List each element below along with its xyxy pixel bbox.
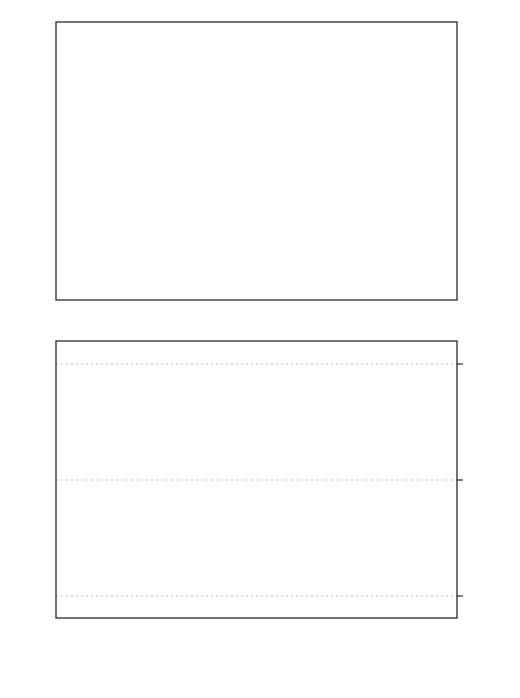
- figure: [0, 0, 520, 698]
- top-panel: [56, 22, 457, 300]
- bottom-panel: [56, 341, 463, 618]
- top-plot-frame: [56, 22, 457, 300]
